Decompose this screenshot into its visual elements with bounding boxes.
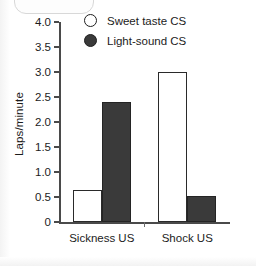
x-axis-tick xyxy=(144,222,145,227)
x-axis-category-label: Shock US xyxy=(162,232,213,244)
filled-circle-icon xyxy=(84,34,97,47)
open-circle-icon xyxy=(84,14,97,27)
plot-area: 00.51.01.52.02.53.03.54.0 Sickness USSho… xyxy=(59,22,230,222)
bar-chart-figure: Laps/minute 00.51.01.52.02.53.03.54.0 Si… xyxy=(0,0,256,266)
y-axis-tick xyxy=(54,121,59,122)
y-axis-tick-label: 3.0 xyxy=(35,66,51,78)
legend-item: Sweet taste CS xyxy=(84,14,186,27)
legend-item-label: Light-sound CS xyxy=(107,35,186,47)
x-axis-category-label: Sickness US xyxy=(69,232,134,244)
y-axis-tick-label: 3.5 xyxy=(35,41,51,53)
y-axis-tick xyxy=(54,96,59,97)
y-axis-line xyxy=(59,22,61,222)
y-axis-tick xyxy=(54,71,59,72)
bar xyxy=(158,72,187,222)
legend-item-label: Sweet taste CS xyxy=(107,15,186,27)
y-axis-tick-label: 1.5 xyxy=(35,141,51,153)
bar xyxy=(102,102,131,222)
y-axis-tick xyxy=(54,196,59,197)
y-axis-tick-label: 1.0 xyxy=(35,166,51,178)
bar xyxy=(187,196,216,222)
y-axis-tick xyxy=(54,171,59,172)
y-axis-tick xyxy=(54,21,59,22)
y-axis-tick xyxy=(54,221,59,222)
y-axis-tick xyxy=(54,46,59,47)
chart-legend: Sweet taste CSLight-sound CS xyxy=(84,14,186,47)
y-axis-tick-label: 2.5 xyxy=(35,91,51,103)
y-axis-title: Laps/minute xyxy=(13,64,25,184)
bar xyxy=(73,190,102,223)
legend-item: Light-sound CS xyxy=(84,34,186,47)
y-axis-tick-label: 2.0 xyxy=(35,116,51,128)
y-axis-tick xyxy=(54,146,59,147)
y-axis-tick-label: 0 xyxy=(45,216,51,228)
y-axis-tick-label: 0.5 xyxy=(35,191,51,203)
y-axis-tick-label: 4.0 xyxy=(35,16,51,28)
